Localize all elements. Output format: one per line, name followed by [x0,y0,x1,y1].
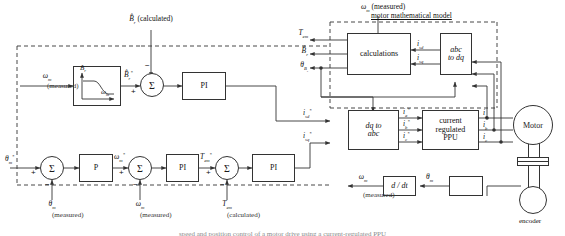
tem-ref-label: Tem* [200,152,212,161]
current-regulated-ppu-block: current regulated PPU [422,110,479,150]
ic-measured-label: ic [483,132,487,141]
summer-speed-symbol: Σ [137,163,143,174]
pi-speed-block: PI [166,154,199,182]
ia-ref-label: ia* [403,107,410,116]
summer-position: Σ [40,156,64,180]
summer-flux-plus: + [131,87,136,96]
isq-ref-label: isq* [303,131,312,140]
isd-feedback-label: isd [417,39,423,48]
encoder-interface-block [449,176,483,196]
theta-br-out-label: θBr [300,60,308,70]
theta-m-feedback-symbol: θm [48,199,55,208]
wm-measured-left-symbol: ωm [43,71,52,80]
ia-measured-label: ia [483,108,487,117]
p-position-label: P [94,164,98,172]
calculations-label: calculations [360,50,398,58]
wm-ref-label: ωm* [114,152,125,161]
calculations-block: calculations [347,33,411,75]
abc-to-dq-block: abc to dq [440,33,472,75]
pi-flux-label: PI [200,82,207,90]
wm-output-note: (measured) [363,191,394,199]
summer-torque-minus: − [220,180,225,189]
encoder-circle [519,186,547,214]
differentiator-label: d / dt [391,182,407,190]
ib-ref-label: ib* [403,119,410,128]
block-diagram: B̂r ωm PI P PI PI calculations abc to dq… [0,0,565,236]
encoder-label: encoder [519,217,541,225]
ic-ref-label: ic* [403,131,409,140]
dq-to-abc-block: dq to abc [348,110,399,150]
field-weakening-x-axis-label: ωm [101,88,109,96]
wm-feedback-note: (measured) [140,211,171,219]
pi-torque-block: PI [252,154,295,182]
wm-output-symbol: ωm [359,172,368,181]
theta-m-ref-label: θm* [5,154,14,163]
summer-torque: Σ [215,156,239,180]
summer-speed-minus: − [133,180,138,189]
summer-speed: Σ [128,156,152,180]
isq-feedback-label: isq [417,53,423,62]
motor-model-label: motor mathematical model [371,11,452,20]
br-out-label: B̂r [302,46,308,55]
tem-feedback-symbol: Tem [222,199,232,208]
summer-flux-symbol: Σ [149,80,155,91]
wire-layer [0,0,565,236]
figure-caption: speed and position control of a motor dr… [0,230,565,236]
shaft-coupler-inner [517,161,549,162]
br-ref-label: B̂r* [124,70,133,79]
summer-torque-plus: + [206,168,211,177]
summer-torque-symbol: Σ [224,163,230,174]
summer-position-minus: − [45,180,50,189]
tem-out-label: Tem [298,28,308,37]
field-weakening-y-axis-label: B̂r [80,64,86,72]
motor-label: Motor [523,121,543,130]
dq-to-abc-line2: abc [368,130,380,138]
pi-speed-label: PI [179,164,186,172]
br-calculated-label: B̂r (calculated) [129,14,173,23]
field-weakening-curve-icon [74,67,120,105]
pi-flux-block: PI [182,72,226,100]
tem-feedback-note: (calculated) [227,211,260,219]
wm-top-symbol: ωm (measured) [361,2,405,11]
wm-feedback-symbol: ωm [136,199,145,208]
ppu-line3: PPU [443,134,458,142]
pi-torque-label: PI [270,164,277,172]
p-position-block: P [79,154,113,182]
summer-flux-minus: − [145,61,150,70]
theta-m-output-label: θm [426,172,433,181]
wm-measured-left-note: (measured) [47,82,78,90]
summer-position-symbol: Σ [49,163,55,174]
abc-to-dq-line2: to dq [448,54,464,62]
motor-block: Motor [513,105,553,145]
field-weakening-block [73,66,121,106]
theta-m-feedback-note: (measured) [52,211,83,219]
ib-measured-label: ib [483,120,487,129]
summer-position-plus: + [31,168,36,177]
isd-ref-label: isd* [303,108,312,117]
summer-flux: Σ [140,73,164,97]
summer-speed-plus: + [119,168,124,177]
